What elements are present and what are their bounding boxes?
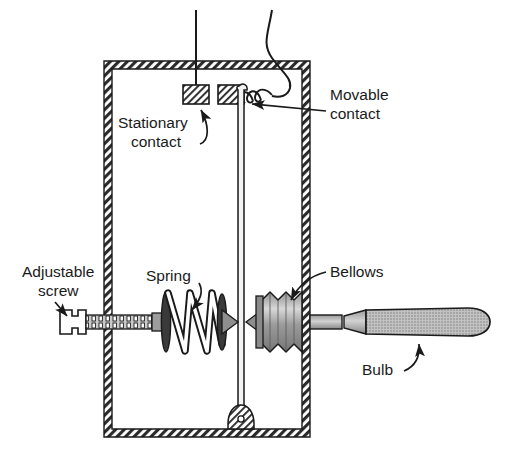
- pivot-pin: [238, 416, 244, 422]
- spring-label: Spring: [146, 267, 191, 284]
- movable-contact-label-line2: contact: [330, 105, 381, 122]
- stationary-contact-label-line2: contact: [131, 133, 182, 150]
- bellows-body: [262, 292, 302, 352]
- adjustable-screw-label-line2: screw: [38, 282, 79, 299]
- stationary-contact: [183, 85, 209, 104]
- screw-thread: [86, 315, 152, 329]
- bulb-body: [366, 308, 490, 336]
- canvas-background: [0, 0, 517, 470]
- diagram-canvas: Stationary contact Movable contact Adjus…: [0, 0, 517, 470]
- adjustable-screw-label-line1: Adjustable: [22, 263, 94, 280]
- bulb-stem-inner: [310, 315, 342, 329]
- bulb-label: Bulb: [362, 361, 393, 378]
- bellows-label: Bellows: [330, 263, 384, 280]
- stationary-contact-block: [183, 85, 209, 104]
- movable-contact-label-line1: Movable: [330, 86, 389, 103]
- pressure-switch-diagram: Stationary contact Movable contact Adjus…: [0, 0, 517, 470]
- stationary-contact-label-line1: Stationary: [118, 114, 188, 131]
- bellows-endplate-left: [256, 296, 263, 348]
